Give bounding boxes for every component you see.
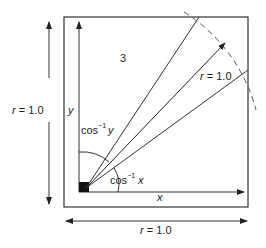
radius-label-diagonal: rr = 1.0 = 1.0 [200,70,232,82]
ray-radius [86,43,225,188]
region-label: 3 [120,52,126,64]
outer-square [64,17,248,207]
unit-circle-arc [184,12,256,110]
radius-label-left: r = 1.0 [12,104,44,116]
unit-square-diagram: 3 rr = 1.0 = 1.0 r = 1.0 r = 1.0 y x cos… [0,0,266,248]
x-axis-label: x [156,191,163,203]
y-axis-label: y [67,104,75,116]
angle-label-x: cos−1x [110,172,144,186]
radius-label-bottom: r = 1.0 [140,224,172,236]
ray-top [86,17,199,188]
angle-label-y: cos−1y [81,122,115,136]
